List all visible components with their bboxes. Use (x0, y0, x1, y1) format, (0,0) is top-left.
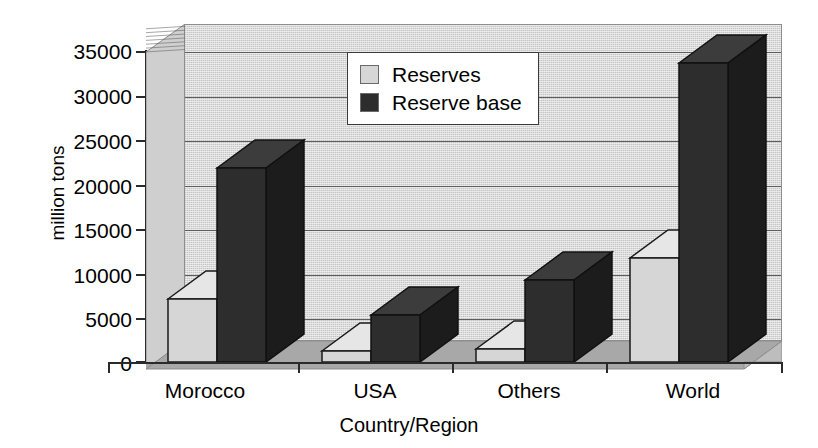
y-axis-tick-labels: 35000 30000 25000 20000 15000 10000 5000… (22, 0, 132, 448)
y-tick-mark (136, 229, 146, 231)
y-tick-mark (136, 96, 146, 98)
bar-others-reserve-base (525, 252, 612, 362)
bar-usa-reserve-base (371, 287, 458, 362)
x-tick-label-usa: USA (353, 379, 396, 403)
y-tick-label: 30000 (22, 86, 132, 107)
legend-label-reserve-base: Reserve base (392, 92, 522, 113)
y-tick-label: 20000 (22, 176, 132, 197)
legend-item-reserves: Reserves (360, 60, 522, 88)
x-tick-label-world: World (666, 379, 720, 403)
legend-label-reserves: Reserves (392, 64, 481, 85)
y-tick-mark (136, 140, 146, 142)
bar-chart: million tons 35000 30000 25000 20000 150… (0, 0, 818, 448)
x-tick-mark (452, 362, 454, 373)
x-tick-mark (298, 362, 300, 373)
y-tick-label: 35000 (22, 41, 132, 62)
y-tick-label: 5000 (22, 309, 132, 330)
bar-world-reserve-base (679, 35, 766, 362)
legend-swatch-reserve-base (360, 93, 379, 112)
x-tick-label-others: Others (497, 379, 560, 403)
y-tick-mark (136, 318, 146, 320)
legend-swatch-reserves (360, 65, 379, 84)
x-axis-line (108, 362, 782, 364)
y-tick-mark (136, 185, 146, 187)
y-tick-mark (136, 274, 146, 276)
x-tick-mark (606, 362, 608, 373)
y-tick-label: 25000 (22, 131, 132, 152)
y-tick-mark (136, 51, 146, 53)
chart-legend: Reserves Reserve base (347, 52, 539, 125)
y-tick-label: 15000 (22, 220, 132, 241)
x-tick-mark (108, 362, 110, 373)
x-axis-title: Country/Region (0, 414, 818, 437)
bar-morocco-reserve-base (217, 140, 304, 362)
legend-item-reserve-base: Reserve base (360, 88, 522, 116)
x-tick-mark (781, 362, 783, 373)
y-tick-label: 10000 (22, 265, 132, 286)
x-tick-label-morocco: Morocco (165, 379, 246, 403)
